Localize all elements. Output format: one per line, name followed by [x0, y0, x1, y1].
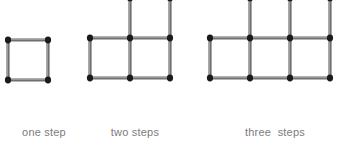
matchstick-head	[207, 75, 213, 82]
matchstick-head	[247, 35, 253, 42]
matchstick-head	[207, 35, 213, 42]
matchstick-head	[287, 35, 293, 42]
matchstick-head	[287, 75, 293, 82]
matchstick-head	[327, 75, 333, 82]
caption-one-step: one step	[0, 126, 88, 139]
figure-three-steps-graphic	[0, 0, 340, 146]
matchstick-head	[247, 0, 253, 1]
caption-three-steps: three steps	[220, 126, 330, 139]
matchstick-head	[287, 0, 293, 1]
matchstick-head	[327, 0, 333, 1]
caption-two-steps: two steps	[91, 126, 179, 139]
matchstick-head	[327, 35, 333, 42]
matchstick-staircase-diagram: one step two steps three steps	[0, 0, 340, 146]
matchstick-head	[247, 75, 253, 82]
